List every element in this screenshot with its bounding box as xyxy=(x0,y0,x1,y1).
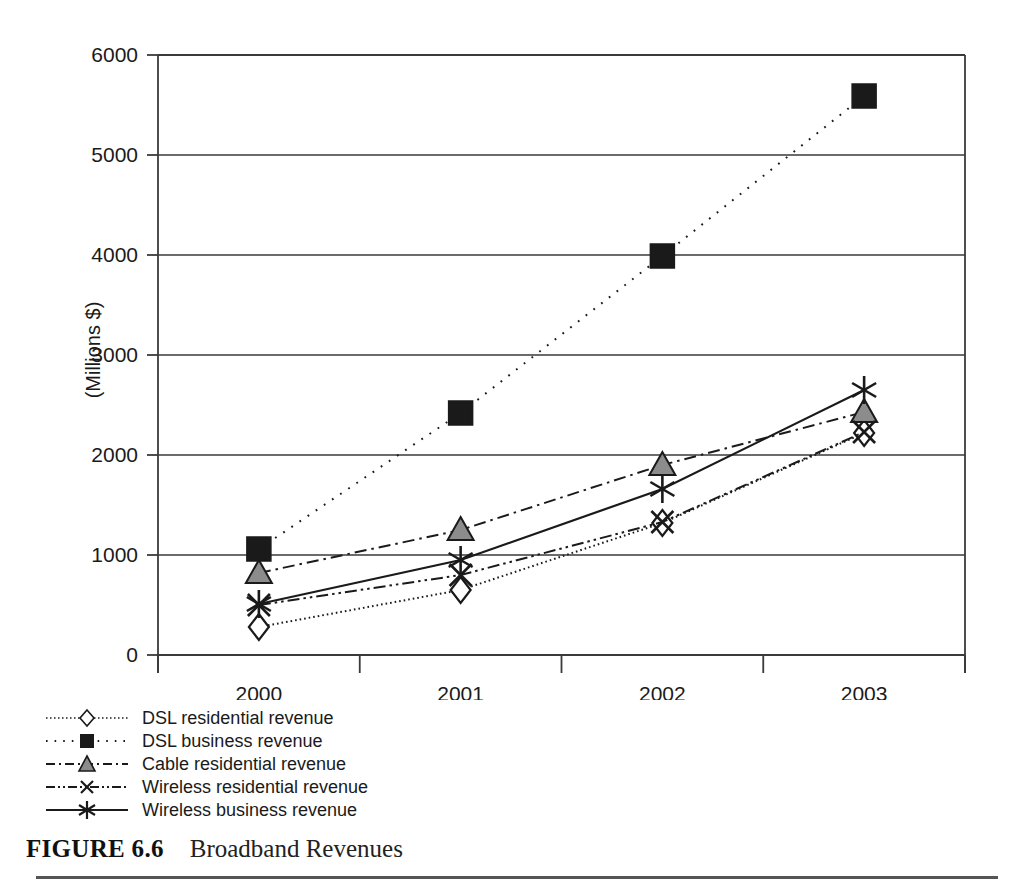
x-tick-label: 2001 xyxy=(437,682,484,700)
y-tick-label: 6000 xyxy=(91,43,138,66)
legend-item: DSL residential revenue xyxy=(44,706,464,729)
data-point-marker xyxy=(650,475,674,503)
x-tick-label: 2000 xyxy=(236,682,283,700)
chart-plot-area: 0100020003000400050006000 20002001200220… xyxy=(0,0,1018,700)
line-chart: 0100020003000400050006000 20002001200220… xyxy=(0,0,1018,700)
figure-caption: FIGURE 6.6 Broadband Revenues xyxy=(26,835,403,863)
legend-item: Wireless residential revenue xyxy=(44,775,464,798)
y-tick-label: 5000 xyxy=(91,143,138,166)
y-tick-label: 0 xyxy=(126,643,138,666)
legend-item: DSL business revenue xyxy=(44,729,464,752)
x-tick-label: 2003 xyxy=(841,682,888,700)
legend-label: Wireless residential revenue xyxy=(142,776,368,798)
caption-divider xyxy=(36,876,998,879)
y-tick-label: 4000 xyxy=(91,243,138,266)
data-point-marker xyxy=(852,376,876,404)
figure-title: Broadband Revenues xyxy=(190,835,403,863)
legend-key-wireless-residential-revenue xyxy=(44,776,130,798)
legend-item: Cable residential revenue xyxy=(44,752,464,775)
data-series-group xyxy=(246,84,877,640)
data-point-marker xyxy=(448,517,474,540)
legend-key-dsl-residential-revenue xyxy=(44,707,130,729)
x-tick-label: 2002 xyxy=(639,682,686,700)
legend-label: DSL business revenue xyxy=(142,730,322,752)
data-point-marker xyxy=(247,537,271,561)
legend-label: DSL residential revenue xyxy=(142,707,333,729)
figure-number: FIGURE 6.6 xyxy=(26,835,164,863)
figure-container: 0100020003000400050006000 20002001200220… xyxy=(0,0,1018,886)
legend-key-wireless-business-revenue xyxy=(44,799,130,821)
y-tick-label: 1000 xyxy=(91,543,138,566)
y-axis-title: (Millions $) xyxy=(82,302,104,399)
chart-legend: DSL residential revenue DSL business rev… xyxy=(44,706,464,821)
gridlines xyxy=(158,55,965,655)
data-point-marker xyxy=(852,84,876,108)
legend-item: Wireless business revenue xyxy=(44,798,464,821)
data-point-marker xyxy=(449,401,473,425)
legend-label: Cable residential revenue xyxy=(142,753,346,775)
legend-key-cable-residential-revenue xyxy=(44,753,130,775)
legend-label: Wireless business revenue xyxy=(142,799,357,821)
y-tick-label: 2000 xyxy=(91,443,138,466)
data-point-marker xyxy=(650,244,674,268)
data-point-marker xyxy=(449,546,473,574)
legend-key-dsl-business-revenue xyxy=(44,730,130,752)
plot-frame xyxy=(158,55,965,673)
x-axis-ticks: 2000200120022003 xyxy=(158,655,965,700)
data-series xyxy=(249,420,874,640)
